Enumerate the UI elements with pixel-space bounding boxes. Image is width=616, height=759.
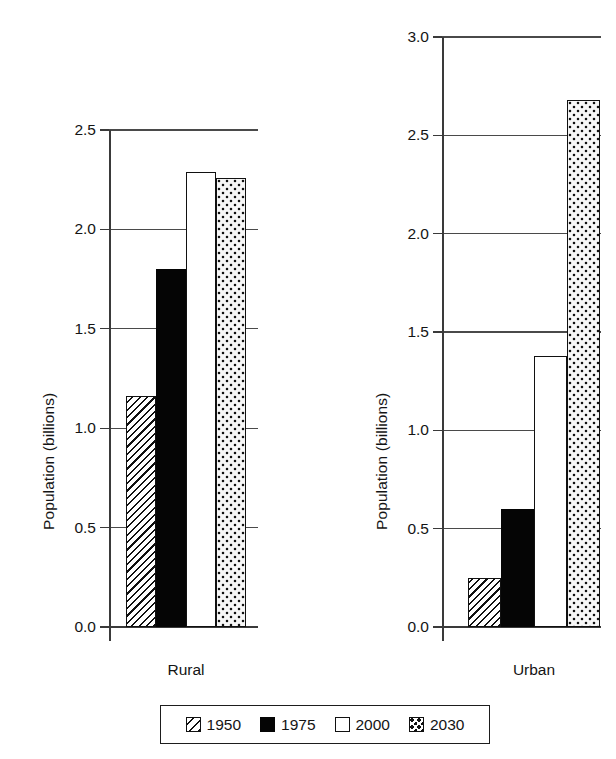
y-axis-tick-label: 1.0 [36,419,96,437]
x-axis-category-label: Urban [464,661,604,679]
x-axis-category-label: Rural [116,661,256,679]
legend-entry-2000: 2000 [335,716,390,734]
y-axis-label: Population (billions) [373,393,391,530]
bar-rural-1950 [126,396,156,627]
y-axis-tick-label: 1.0 [369,421,429,439]
y-axis-tick [433,135,442,136]
y-axis-tick [433,36,442,37]
y-axis-tick-label: 0.5 [36,519,96,537]
y-axis-tick [433,528,442,529]
y-axis-tick [100,527,109,528]
y-axis-tick [100,229,109,230]
bar-urban-1975 [501,509,534,627]
y-axis-tick [433,233,442,234]
legend-label: 2030 [430,716,464,734]
bar-urban-1950 [468,578,501,627]
y-axis-tick-label: 2.0 [369,225,429,243]
chart-legend: 1950197520002030 [160,705,490,744]
gridline [442,36,601,37]
bar-urban-2030 [567,100,600,627]
gridline [109,129,258,130]
dotted-swatch-icon [409,717,424,732]
open-swatch-icon [335,717,350,732]
legend-entry-1975: 1975 [260,716,315,734]
y-axis-label: Population (billions) [40,393,58,530]
y-axis-tick-label: 1.5 [369,323,429,341]
hatch-swatch-icon [186,717,201,732]
bar-rural-2030 [216,178,246,627]
y-axis-tick [100,129,109,130]
y-axis-tick [433,430,442,431]
bar-urban-2000 [534,356,567,627]
solid-swatch-icon [260,717,275,732]
legend-entry-1950: 1950 [186,716,241,734]
legend-label: 1950 [207,716,241,734]
y-axis-tick-label: 2.5 [369,126,429,144]
bar-rural-2000 [186,172,216,627]
y-axis-spine [442,37,444,641]
y-axis-tick [100,328,109,329]
y-axis-tick-label: 0.0 [36,618,96,636]
y-axis-tick-label: 1.5 [36,320,96,338]
y-axis-spine [109,130,111,641]
y-axis-tick-label: 2.0 [36,220,96,238]
legend-entry-2030: 2030 [409,716,464,734]
figure: Population (billions)0.00.51.01.52.02.5R… [0,0,616,759]
y-axis-tick [100,428,109,429]
legend-label: 1975 [281,716,315,734]
bar-rural-1975 [156,269,186,627]
y-axis-tick-label: 0.5 [369,520,429,538]
y-axis-tick [433,331,442,332]
legend-label: 2000 [356,716,390,734]
y-axis-tick-label: 3.0 [369,28,429,46]
y-axis-tick-label: 0.0 [369,618,429,636]
y-axis-tick-label: 2.5 [36,121,96,139]
